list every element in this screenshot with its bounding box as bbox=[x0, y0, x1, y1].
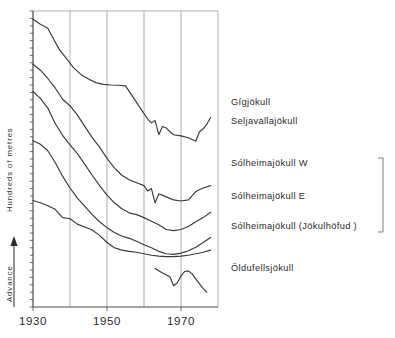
series-label-oldufellsjokull: Öldufellsjökull bbox=[231, 263, 294, 273]
y-minor-ticks bbox=[30, 11, 33, 307]
bracket-icon bbox=[378, 158, 383, 232]
series-group bbox=[33, 19, 211, 292]
series-label-solheimajokull-jokulhofud: Sólheimajökull (Jökulhöfud ) bbox=[231, 221, 357, 231]
glacier-advance-chart: 193019501970 Hundreds of metres Advance … bbox=[0, 0, 395, 338]
series-line-sólheimajökull-e bbox=[33, 141, 211, 255]
series-label-solheimajokull-e: Sólheimajökull E bbox=[231, 191, 305, 201]
advance-axis-label: Advance bbox=[5, 265, 14, 302]
chart-canvas: 193019501970 Hundreds of metres Advance … bbox=[0, 0, 395, 338]
series-label-gigjokull: Gígjökull bbox=[231, 97, 270, 107]
solheima-group-bracket bbox=[378, 158, 383, 232]
x-tick-label-1970: 1970 bbox=[167, 315, 195, 327]
x-tick-label-1930: 1930 bbox=[19, 315, 47, 327]
series-line-gígjökull bbox=[33, 19, 211, 141]
series-labels: Gígjökull Seljavallajökull Sólheimajökul… bbox=[231, 97, 357, 273]
y-axis-titles: Hundreds of metres Advance bbox=[5, 127, 14, 302]
y-axis-title: Hundreds of metres bbox=[5, 127, 14, 212]
series-line-sólheimajökull-w bbox=[33, 92, 211, 231]
series-label-seljavallajokull: Seljavallajökull bbox=[231, 116, 298, 126]
x-tick-label-1950: 1950 bbox=[93, 315, 121, 327]
advance-arrow-head-icon bbox=[10, 236, 17, 246]
x-tick-labels: 193019501970 bbox=[19, 307, 195, 327]
grid-group bbox=[33, 11, 218, 307]
axes-group bbox=[33, 11, 218, 307]
series-label-solheimajokull-w: Sólheimajökull W bbox=[231, 158, 308, 168]
